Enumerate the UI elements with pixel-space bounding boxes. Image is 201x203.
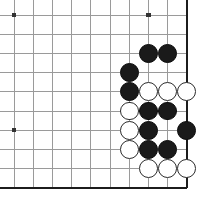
stone-black[interactable] — [139, 44, 158, 63]
stone-white[interactable] — [139, 82, 158, 101]
stone-black[interactable] — [120, 63, 139, 82]
stone-black[interactable] — [139, 140, 158, 159]
star-point — [12, 13, 16, 17]
stone-white[interactable] — [120, 121, 139, 140]
go-board-container[interactable] — [0, 0, 201, 203]
stone-black[interactable] — [158, 140, 177, 159]
stone-black[interactable] — [158, 44, 177, 63]
stone-black[interactable] — [139, 121, 158, 140]
stone-white[interactable] — [139, 159, 158, 178]
stone-white[interactable] — [120, 102, 139, 121]
stone-black[interactable] — [177, 121, 196, 140]
stone-black[interactable] — [120, 82, 139, 101]
stone-white[interactable] — [158, 159, 177, 178]
stone-black[interactable] — [139, 102, 158, 121]
star-point — [146, 13, 150, 17]
star-point — [12, 128, 16, 132]
stone-white[interactable] — [120, 140, 139, 159]
stone-black[interactable] — [158, 102, 177, 121]
